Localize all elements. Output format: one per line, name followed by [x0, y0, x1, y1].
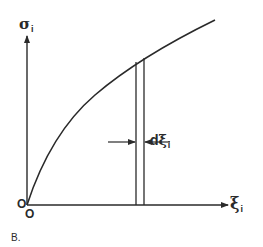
sigma-symbol: σ [19, 15, 30, 33]
origin-label-bottom: O [25, 208, 34, 220]
strip-width-label: dξi [150, 133, 170, 147]
y-subscript: i [31, 24, 34, 34]
x-axis-label: ξi [230, 196, 243, 212]
y-axis-label: σi [19, 16, 34, 32]
panel-label: B. [11, 233, 20, 243]
strip-xi-symbol: ξ [159, 132, 167, 148]
strip-subscript: i [168, 140, 171, 150]
xi-symbol: ξ [230, 194, 239, 213]
x-subscript: i [240, 204, 243, 214]
stress-strain-diagram [0, 0, 263, 247]
d-prefix: d [150, 132, 159, 148]
stress-curve [27, 20, 215, 205]
